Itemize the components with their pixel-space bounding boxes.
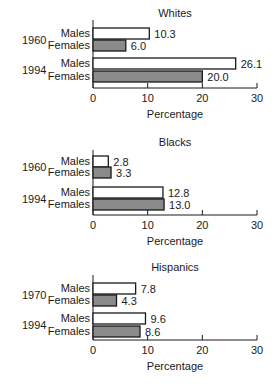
bar-males: [93, 156, 108, 167]
x-axis-label: Percentage: [147, 235, 203, 247]
bar-males: [93, 58, 236, 69]
x-tick-label: 0: [90, 92, 96, 104]
category-label: Males: [61, 282, 91, 294]
x-axis-label: Percentage: [147, 108, 203, 120]
data-label: 3.3: [116, 167, 131, 179]
x-axis-label: Percentage: [147, 360, 203, 372]
x-tick-label: 0: [90, 219, 96, 231]
x-tick-label: 30: [251, 92, 263, 104]
data-label: 9.6: [150, 313, 165, 325]
year-label: 1994: [22, 319, 46, 331]
category-label: Males: [61, 27, 91, 39]
bar-females: [93, 167, 111, 178]
data-label: 7.8: [141, 283, 156, 295]
bar-females: [93, 295, 117, 306]
chart-title: Hispanics: [151, 261, 199, 273]
x-tick-label: 30: [251, 219, 263, 231]
bar-females: [93, 199, 164, 210]
category-label: Females: [48, 198, 91, 210]
bar-females: [93, 326, 140, 337]
chart-title: Blacks: [159, 136, 192, 148]
category-label: Females: [48, 70, 91, 82]
x-tick-label: 20: [196, 344, 208, 356]
data-label: 26.1: [241, 58, 262, 70]
chart-canvas: Whites0102030Percentage1960Males10.3Fema…: [0, 0, 274, 390]
x-tick-label: 10: [142, 344, 154, 356]
category-label: Males: [61, 312, 91, 324]
year-label: 1994: [22, 193, 46, 205]
category-label: Females: [48, 294, 91, 306]
category-label: Females: [48, 325, 91, 337]
bar-males: [93, 283, 136, 294]
year-label: 1960: [22, 161, 46, 173]
category-label: Females: [48, 166, 91, 178]
bar-males: [93, 28, 149, 39]
x-tick-label: 0: [90, 344, 96, 356]
year-label: 1970: [22, 289, 46, 301]
x-tick-label: 10: [142, 92, 154, 104]
data-label: 20.0: [207, 71, 228, 83]
chart-title: Whites: [158, 7, 192, 19]
data-label: 12.8: [168, 187, 189, 199]
data-label: 4.3: [122, 295, 137, 307]
data-label: 8.6: [145, 326, 160, 338]
x-tick-label: 10: [142, 219, 154, 231]
bar-males: [93, 187, 163, 198]
year-label: 1994: [22, 64, 46, 76]
bar-males: [93, 313, 145, 324]
x-tick-label: 20: [196, 219, 208, 231]
x-tick-label: 20: [196, 92, 208, 104]
category-label: Males: [61, 186, 91, 198]
data-label: 13.0: [169, 199, 190, 211]
data-label: 6.0: [131, 40, 146, 52]
year-label: 1960: [22, 34, 46, 46]
bar-females: [93, 40, 126, 51]
data-label: 10.3: [154, 28, 175, 40]
category-label: Females: [48, 39, 91, 51]
bar-females: [93, 71, 202, 82]
category-label: Males: [61, 57, 91, 69]
x-tick-label: 30: [251, 344, 263, 356]
